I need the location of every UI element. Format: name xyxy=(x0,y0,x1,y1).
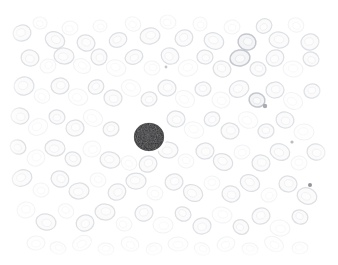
red-blood-cell xyxy=(158,80,176,96)
red-blood-cell xyxy=(279,176,298,193)
red-blood-cell xyxy=(292,242,309,255)
red-blood-cell xyxy=(167,111,186,128)
micrograph-figure: Pale photomicrograph of a blood smear: m… xyxy=(0,0,338,265)
platelet-speck xyxy=(308,183,312,187)
platelet-speck xyxy=(263,104,267,108)
red-blood-cell xyxy=(168,237,188,252)
platelet-speck xyxy=(165,66,168,69)
platelet-speck xyxy=(290,140,293,143)
blood-smear-image xyxy=(0,0,338,265)
red-blood-cell xyxy=(294,124,314,140)
red-blood-cell xyxy=(266,82,285,99)
red-blood-cell xyxy=(204,176,220,191)
red-blood-cell xyxy=(51,78,70,95)
red-blood-cell xyxy=(197,50,213,65)
white-blood-cell xyxy=(132,121,167,154)
red-blood-cell xyxy=(126,173,146,189)
red-blood-cell xyxy=(153,217,173,233)
red-blood-cell xyxy=(93,20,107,32)
